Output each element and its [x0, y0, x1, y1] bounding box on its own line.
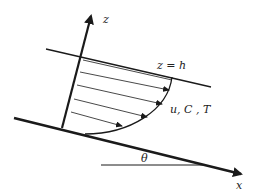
x-axis-label: x [236, 179, 243, 192]
profile-arrow-1 [71, 112, 122, 126]
top-surface-line [46, 49, 211, 87]
angle-theta-label: θ [141, 152, 148, 165]
z-axis [62, 16, 91, 128]
profile-arrow-2 [74, 99, 147, 117]
diagram-canvas: z z = h u, C , T θ x [0, 0, 258, 193]
profile-curve [85, 77, 172, 134]
profile-arrow-3 [77, 85, 162, 104]
profile-label: u, C , T [170, 103, 212, 116]
top-surface-label: z = h [156, 59, 186, 72]
z-axis-label: z [102, 13, 109, 26]
